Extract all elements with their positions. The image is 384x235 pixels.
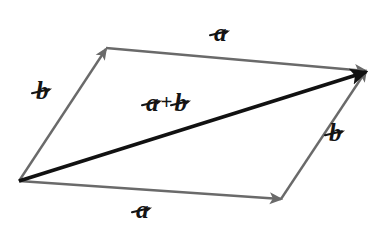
vector-arrow-accent-icon bbox=[31, 75, 53, 100]
b-left-glyph-wrap: b bbox=[36, 76, 49, 103]
a-bottom-glyph-wrap: a bbox=[136, 195, 149, 222]
vector-arrow-accent-icon bbox=[170, 87, 192, 112]
vector-arrow-accent-icon bbox=[131, 194, 153, 219]
vector-label-b-right: b bbox=[329, 118, 342, 145]
vector-addition-figure: a b a + bbox=[0, 0, 384, 235]
resultant-vector-group bbox=[19, 72, 366, 181]
sum-first-glyph-wrap: a bbox=[146, 88, 159, 115]
vector-arrow-accent-icon bbox=[324, 117, 346, 142]
parallelogram-component-vectors bbox=[19, 48, 366, 199]
vector-sum-shaft bbox=[19, 72, 366, 181]
vector-b-left-shaft bbox=[19, 49, 106, 181]
vector-label-a-bottom: a bbox=[136, 195, 149, 222]
b-right-glyph-wrap: b bbox=[329, 118, 342, 145]
vector-a-top-shaft bbox=[106, 48, 366, 71]
vector-arrow-accent-icon bbox=[141, 87, 163, 112]
vector-label-a-top: a bbox=[214, 18, 227, 45]
a-top-glyph-wrap: a bbox=[214, 18, 227, 45]
vector-arrow-accent-icon bbox=[209, 17, 231, 42]
sum-second-glyph-wrap: b bbox=[174, 88, 187, 115]
vector-label-sum: a + b bbox=[146, 88, 187, 115]
vector-label-b-left: b bbox=[36, 76, 49, 103]
